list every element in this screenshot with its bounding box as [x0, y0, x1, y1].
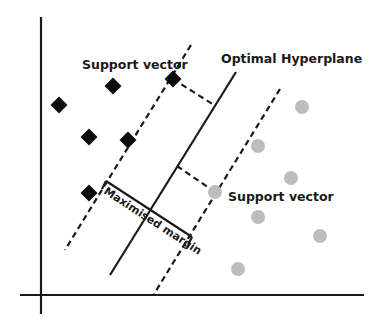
diamond-point [51, 97, 68, 114]
support-vector-diamond [165, 71, 182, 88]
circle-point [251, 210, 265, 224]
class-a-points [51, 71, 182, 202]
circle-point [231, 262, 245, 276]
optimal-hyperplane-line [110, 72, 236, 275]
class-b-points [208, 100, 327, 276]
circle-point [251, 139, 265, 153]
maximised-margin-bar [106, 181, 192, 237]
diamond-point [81, 129, 98, 146]
circle-point [295, 100, 309, 114]
diamond-point [120, 132, 137, 149]
perpendicular-top [173, 79, 214, 105]
support-vector-circle [208, 185, 222, 199]
diamond-point [105, 78, 122, 95]
circle-point [284, 171, 298, 185]
circle-point [313, 229, 327, 243]
label-support-vector-top: Support vector [82, 57, 188, 72]
label-support-vector-right: Support vector [228, 189, 334, 204]
diamond-point [81, 185, 98, 202]
label-optimal-hyperplane: Optimal Hyperplane [221, 51, 362, 66]
label-maximised-margin: Maximised margin [101, 185, 204, 258]
svm-diagram: Support vector Optimal Hyperplane Suppor… [0, 0, 382, 331]
